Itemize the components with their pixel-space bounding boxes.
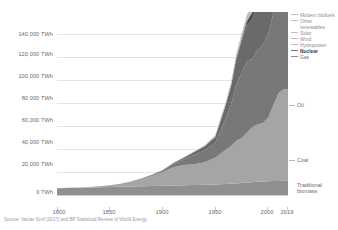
y-tick-label-140000: 140,000 TWh <box>0 31 53 37</box>
chart-root: 140,000 TWh 120,000 TWh 100,000 TWh 80,0… <box>0 0 338 230</box>
y-tick-label-100000: 100,000 TWh <box>0 73 53 79</box>
stacked-area-series <box>57 12 288 196</box>
y-tick-label-80000: 80,000 TWh <box>0 95 53 101</box>
y-tick-label-0: 0 TWh <box>0 189 53 195</box>
series-label-traditional-biomass-line2: biomass <box>297 188 317 194</box>
legend-item-other-renewables: Other renewables <box>291 19 338 30</box>
legend-label-nuclear: Nuclear <box>300 49 318 54</box>
legend-item-modern-biofuels: Modern biofuels <box>291 13 338 19</box>
legend-label-wind: Wind <box>300 37 311 42</box>
y-tick-label-20000: 20,000 TWh <box>0 161 53 167</box>
x-tick-label-2019: 2019 <box>281 209 294 215</box>
legend-item-nuclear: Nuclear <box>291 49 338 55</box>
legend-label-other-renewables: Other renewables <box>300 19 325 30</box>
legend-label-solar: Solar <box>300 31 311 36</box>
series-label-coal: Coal <box>297 157 308 163</box>
x-tick-label-1800: 1800 <box>53 209 66 215</box>
source-note: Source: Vaclav Smil (2017) and BP Statis… <box>4 217 147 222</box>
y-tick-label-40000: 40,000 TWh <box>0 139 53 145</box>
legend-item-wind: Wind <box>291 37 338 43</box>
legend-swatch-modern-biofuels <box>291 14 298 15</box>
legend-swatch-nuclear <box>291 50 298 51</box>
series-label-oil: Oil <box>297 102 304 108</box>
legend-item-hydropower: Hydropower <box>291 43 338 49</box>
y-tick-label-60000: 60,000 TWh <box>0 117 53 123</box>
plot-area: 1800 1850 1900 1950 2000 2019 <box>57 12 288 195</box>
legend-swatch-wind <box>291 38 298 39</box>
legend-swatch-gas <box>291 56 298 57</box>
legend-swatch-hydropower <box>291 44 298 45</box>
legend-swatch-solar <box>291 32 298 33</box>
legend: Modern biofuels Other renewables Solar W… <box>291 13 338 60</box>
x-tick-label-1850: 1850 <box>103 209 116 215</box>
legend-label-gas: Gas <box>300 55 309 60</box>
y-tick-label-120000: 120,000 TWh <box>0 51 53 57</box>
legend-swatch-other-renewables <box>291 20 298 21</box>
coal-leader-line <box>289 160 295 161</box>
x-tick-label-1900: 1900 <box>156 209 169 215</box>
x-tick-label-2000: 2000 <box>261 209 274 215</box>
legend-label-modern-biofuels: Modern biofuels <box>300 13 335 18</box>
legend-item-gas: Gas <box>291 55 338 61</box>
x-tick-label-1950: 1950 <box>209 209 222 215</box>
legend-item-solar: Solar <box>291 31 338 37</box>
legend-label-hydropower: Hydropower <box>300 43 326 48</box>
oil-leader-line <box>289 105 295 106</box>
